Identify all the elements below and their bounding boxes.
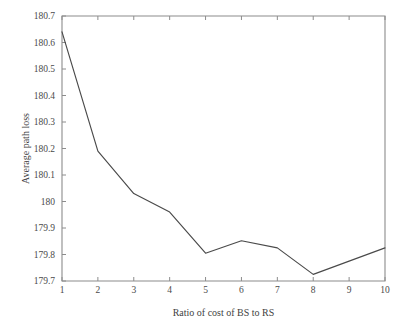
y-tick-label: 180.6: [34, 38, 56, 48]
x-tick-label: 1: [60, 285, 65, 295]
line-chart: 12345678910 179.7179.8179.9180180.1180.2…: [0, 0, 405, 327]
y-axis-title: Average path loss: [20, 113, 31, 184]
y-tick-label: 179.7: [34, 276, 56, 286]
x-tick-label: 6: [239, 285, 244, 295]
x-tick-label: 2: [96, 285, 101, 295]
x-tick-label: 9: [347, 285, 352, 295]
y-tick-label: 180: [41, 197, 56, 207]
y-tick-label: 180.1: [34, 170, 56, 180]
y-tick-label: 180.3: [34, 117, 56, 127]
x-tick-label: 8: [311, 285, 316, 295]
y-tick-label: 180.5: [34, 64, 56, 74]
chart-background: [0, 0, 405, 327]
y-tick-label: 179.8: [34, 250, 56, 260]
x-tick-label: 4: [167, 285, 172, 295]
y-tick-label: 180.2: [34, 144, 56, 154]
x-tick-label: 3: [131, 285, 136, 295]
x-axis-title: Ratio of cost of BS to RS: [173, 307, 275, 318]
chart-figure: 12345678910 179.7179.8179.9180180.1180.2…: [0, 0, 405, 327]
y-tick-label: 179.9: [34, 223, 56, 233]
x-tick-label: 10: [380, 285, 390, 295]
x-tick-label: 7: [275, 285, 280, 295]
y-tick-label: 180.4: [34, 91, 56, 101]
y-tick-label: 180.7: [34, 11, 56, 21]
x-tick-label: 5: [203, 285, 208, 295]
